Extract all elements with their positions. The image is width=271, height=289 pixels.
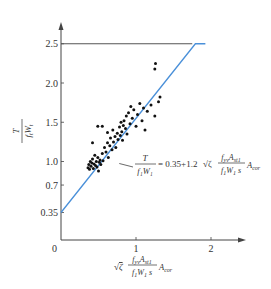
y-tick-label: 1.5 [46,117,59,128]
data-point [111,129,114,132]
data-point [105,151,108,154]
data-point [135,125,138,128]
x-label-num: fyvAst1 [132,255,151,265]
data-point [91,158,94,161]
data-point [131,117,134,120]
data-point [96,166,99,169]
data-point [120,121,123,124]
data-point [101,152,104,155]
x-tick-label: 2 [209,243,214,254]
data-point [129,122,132,125]
y-axis-arrow-icon [59,22,64,30]
annotation-sqrt: √ζ [203,159,212,169]
data-point [118,126,121,129]
data-point [154,62,157,65]
data-point [97,169,100,172]
data-point [142,107,145,110]
data-point [138,102,141,105]
data-point [92,167,95,170]
data-point [127,111,130,114]
data-point [114,135,117,138]
chart-svg: 0.350.71.01.52.02.50 12 T f₁W₁ = 0.35+1.… [0,0,271,289]
x-label-den: f1W1 s [132,268,152,278]
x-axis-arrow-icon [238,238,246,243]
data-point [114,146,117,149]
y-tick-label: 0.35 [41,207,59,218]
annotation-rhs-num: fyvAst1 [221,153,240,163]
y-label-num: T [11,128,21,134]
data-point [153,67,156,70]
data-point [123,119,126,122]
fit-line [61,44,205,213]
origin-label: 0 [52,243,57,254]
y-tick-label: 0.7 [46,180,59,191]
y-axis-label: T ftWt [11,119,34,143]
x-tick-label: 1 [134,243,139,254]
y-ticks: 0.350.71.01.52.02.50 [41,38,65,254]
data-point [107,156,110,159]
data-point [93,154,96,157]
y-tick-label: 2.0 [46,78,59,89]
data-point [122,124,125,127]
annotation-lhs-den: f₁W₁ [137,166,152,176]
data-point [146,110,149,113]
scatter-points [87,62,162,172]
data-point [159,96,162,99]
y-tick-label: 1.0 [46,156,59,167]
data-point [141,119,144,122]
data-point [125,115,128,118]
data-point [136,113,139,116]
data-point [117,138,120,141]
data-point [111,148,114,151]
annotation-formula: T f₁W₁ = 0.35+1.2 √ζ fyvAst1 f1W1 s Acor [135,153,261,176]
data-point [129,105,132,108]
annotation-rhs-den: f1W1 s [221,166,241,176]
data-point [102,159,105,162]
data-point [108,144,111,147]
x-label-sqrt: √ζ [114,262,124,272]
annotation-lhs-num: T [142,153,148,163]
data-point [90,165,93,168]
data-point [132,108,135,111]
annotation-leader [119,164,133,168]
data-point [91,141,94,144]
data-point [106,141,109,144]
data-point [116,132,119,135]
x-label-tail: Acor [158,262,173,273]
data-point [106,131,109,134]
y-tick-label: 2.5 [46,38,59,49]
data-point [126,133,129,136]
data-point [99,158,102,161]
data-point [96,125,99,128]
annotation-eq: = 0.35+1.2 [158,159,197,169]
data-point [109,136,112,139]
x-axis-label: √ζ fyvAst1 f1W1 s Acor [114,255,173,278]
data-point [103,146,106,149]
annotation-tail: Acor [246,160,261,171]
data-point [157,100,160,103]
y-label-den: ftWt [23,124,34,137]
data-point [153,115,156,118]
axes [59,22,247,243]
data-point [88,168,91,171]
data-point [99,163,102,166]
data-point [95,160,98,163]
data-point [121,139,124,142]
data-point [112,140,115,143]
data-point [119,134,122,137]
data-point [150,104,153,107]
data-point [96,156,99,159]
data-point [120,130,123,133]
data-point [101,125,104,128]
data-point [144,129,147,132]
data-point [124,127,127,130]
